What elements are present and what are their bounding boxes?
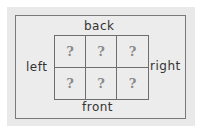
- label-right: right: [150, 59, 181, 73]
- grid-cell: ?: [86, 36, 117, 68]
- grid-cell: ?: [55, 36, 86, 68]
- grid-cell: ?: [117, 36, 148, 68]
- label-back: back: [84, 19, 115, 33]
- grid-cell: ?: [55, 68, 86, 99]
- grid-cell: ?: [86, 68, 117, 99]
- label-front: front: [82, 100, 113, 114]
- grid-3x2: ? ? ? ? ? ?: [54, 35, 149, 100]
- grid-cell: ?: [117, 68, 148, 99]
- label-left: left: [26, 60, 47, 74]
